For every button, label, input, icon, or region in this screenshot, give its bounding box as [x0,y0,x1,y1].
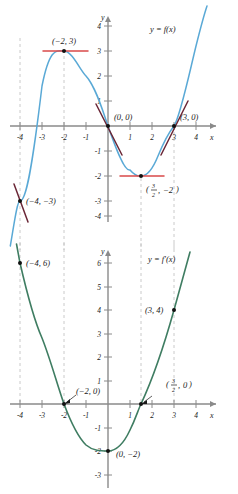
label-curve-f: y = f(x) [149,24,176,34]
bottom-xtick-1: 1 [128,411,132,420]
bottom-ytick-3: 3 [96,330,101,339]
top-ytick--4: -4 [95,212,101,221]
top-ytick--2: -2 [95,172,101,181]
label-min-close-paren: ) [175,184,179,194]
top-ytick-3: 3 [96,47,101,56]
label-zero-3-0: (3, 0) [180,112,199,122]
top-xtick--3: -3 [39,133,45,142]
label-min-comma: , [158,185,160,195]
chart-bottom-fprime: -4 -3 -2 -1 1 2 3 4 6 5 4 3 2 1 -1 -2 -3… [10,244,216,488]
bottom-ytick-5: 5 [97,283,101,292]
dashed-guides [20,38,174,404]
point-b-yint-0--2 [106,449,110,453]
top-y-axis-arrow [105,16,111,22]
label-b-3-4: (3, 4) [145,305,164,315]
top-ytick-4: 4 [97,22,101,31]
top-ytick--1: -1 [95,147,101,156]
label-b-end--4-6: (−4, 6) [26,258,50,268]
label-b-yint: (0, −2) [116,449,140,459]
top-xtick--1: -1 [83,133,89,142]
top-xtick-4: 4 [194,133,198,142]
top-xtick-2: 2 [150,133,154,142]
bottom-ytick-4: 4 [97,306,101,315]
point-b-end--4-6 [18,261,22,265]
top-xtick--4: -4 [17,133,23,142]
bottom-ytick--3: -3 [95,471,101,480]
label-min-fraction: ( 3 2 , −2 ) [146,183,179,198]
bottom-xtick--1: -1 [83,411,89,420]
bottom-y-axis-name: y [100,247,105,256]
label-b-zero-comma: , [178,380,180,390]
top-xtick--2: -2 [61,133,67,142]
label-min-y: −2 [163,185,174,195]
label-b-zero-denominator: 2 [172,387,175,393]
label-b-zero-open-paren: ( [166,379,170,389]
bottom-ytick-1: 1 [97,377,101,386]
label-b-zero--2-0: (−2, 0) [76,386,100,396]
bottom-xtick-2: 2 [150,411,154,420]
tangent-at-3 [161,101,188,155]
top-x-axis-name: x [209,133,214,142]
bottom-xtick-4: 4 [194,411,198,420]
point-min-1p5--2 [139,174,143,178]
bottom-xtick-3: 3 [171,411,176,420]
label-min-denominator: 2 [152,192,155,198]
top-y-axis-name: y [100,13,105,22]
bottom-ytick--1: -1 [95,424,101,433]
chart-top-f: -4 -3 -2 -1 1 2 3 4 4 3 2 1 -1 -2 -3 -4 … [10,6,216,246]
leader-arrow--2-0 [64,395,76,404]
bottom-xtick--4: -4 [17,411,23,420]
top-ytick--3: -3 [95,197,101,206]
label-min-numerator: 3 [151,183,155,189]
label-b-zero-y: 0 [183,380,188,390]
bottom-xtick--2: -2 [61,411,67,420]
label-b-zero-numerator: 3 [171,378,175,384]
point-max--2-3 [62,49,66,53]
top-x-axis-arrow [210,123,216,129]
point-origin-0-0 [106,124,110,128]
label-b-zero-fraction: ( 3 2 , 0 ) [166,378,192,393]
label-end--4--3: (−4, −3) [26,196,56,206]
point-b-3-4 [172,308,176,312]
label-origin: (0, 0) [114,112,133,122]
bottom-x-axis-arrow [210,401,216,407]
label-min-open-paren: ( [146,184,150,194]
point-end--4--3 [18,199,22,203]
label-max--2-3: (−2, 3) [52,36,76,46]
bottom-y-axis-arrow [105,250,111,256]
bottom-ytick-6: 6 [97,259,101,268]
bottom-x-axis-name: x [209,411,214,420]
bottom-axes [10,252,216,488]
label-curve-f-prime: y = f′(x) [147,254,176,264]
bottom-xtick--3: -3 [39,411,45,420]
point-zero-3-0 [172,124,176,128]
bottom-ytick-2: 2 [97,353,101,362]
calculus-figure: -4 -3 -2 -1 1 2 3 4 4 3 2 1 -1 -2 -3 -4 … [0,0,238,494]
top-ytick-2: 2 [97,72,101,81]
label-b-zero-close-paren: ) [188,379,192,389]
top-xtick-1: 1 [128,133,132,142]
